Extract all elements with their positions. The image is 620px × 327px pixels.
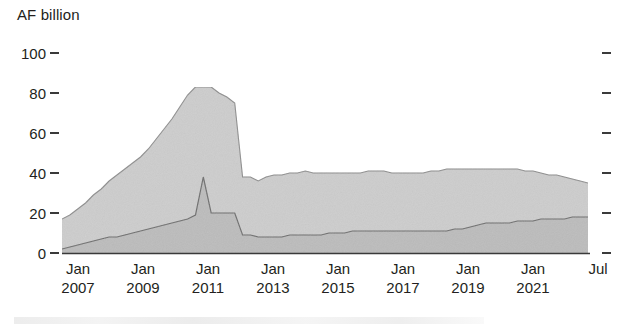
x-axis-tick-month: Jan xyxy=(192,259,224,278)
page-edge-artifact xyxy=(14,317,484,324)
y-axis-tick-label: 40 xyxy=(0,165,46,182)
x-axis-tick-month: Jan xyxy=(61,259,94,278)
x-axis-tick-label: Jan2021 xyxy=(516,259,549,297)
x-axis-tick-month: Jan xyxy=(516,259,549,278)
x-axis-tick-month: Jan xyxy=(256,259,289,278)
y-axis-tick-mark-right xyxy=(602,252,611,254)
x-axis-tick-label: Jul xyxy=(588,259,607,278)
x-axis-tick-month: Jul xyxy=(588,259,607,278)
y-axis-tick-mark xyxy=(50,52,59,54)
y-axis-tick-mark-right xyxy=(602,52,611,54)
x-axis-tick-month: Jan xyxy=(451,259,484,278)
x-axis-tick-label: Jan2015 xyxy=(321,259,354,297)
y-axis-tick-mark xyxy=(50,212,59,214)
y-axis-tick-mark-right xyxy=(602,212,611,214)
x-axis-tick-label: Jan2017 xyxy=(386,259,419,297)
y-axis-tick-mark xyxy=(50,132,59,134)
y-axis-tick-label: 0 xyxy=(0,245,46,262)
y-axis-tick-label: 20 xyxy=(0,205,46,222)
x-axis-tick-label: Jan2009 xyxy=(126,259,159,297)
x-axis-tick-label: Jan2007 xyxy=(61,259,94,297)
x-axis-tick-year: 2019 xyxy=(451,278,484,297)
y-axis-tick-label: 60 xyxy=(0,125,46,142)
y-axis-tick-mark-right xyxy=(602,92,611,94)
x-axis-tick-label: Jan2013 xyxy=(256,259,289,297)
y-axis-tick-label: 100 xyxy=(0,45,46,62)
x-axis-tick-label: Jan2019 xyxy=(451,259,484,297)
x-axis-tick-year: 2007 xyxy=(61,278,94,297)
x-axis-tick-month: Jan xyxy=(321,259,354,278)
x-axis-tick-year: 2015 xyxy=(321,278,354,297)
x-axis-tick-month: Jan xyxy=(126,259,159,278)
x-axis-tick-label: Jan2011 xyxy=(192,259,224,297)
x-axis-tick-month: Jan xyxy=(386,259,419,278)
y-axis-tick-mark xyxy=(50,252,59,254)
chart-figure: AF billion xyxy=(0,0,620,327)
x-axis-tick-year: 2009 xyxy=(126,278,159,297)
y-axis-tick-label: 80 xyxy=(0,85,46,102)
y-axis-tick-mark xyxy=(50,172,59,174)
x-axis-tick-year: 2013 xyxy=(256,278,289,297)
y-axis-tick-mark-right xyxy=(602,132,611,134)
y-axis-tick-mark xyxy=(50,92,59,94)
y-axis-tick-mark-right xyxy=(602,172,611,174)
x-axis-tick-year: 2011 xyxy=(192,278,224,297)
x-axis-tick-year: 2021 xyxy=(516,278,549,297)
x-axis-tick-year: 2017 xyxy=(386,278,419,297)
